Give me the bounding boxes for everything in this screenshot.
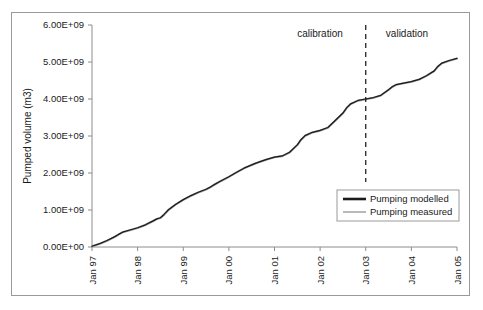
x-tick-label: Jan 01: [269, 256, 280, 285]
chart-root: 0.00E+001.00E+092.00E+093.00E+094.00E+09…: [0, 0, 483, 310]
y-tick-label: 1.00E+09: [43, 204, 84, 215]
y-tick-label: 6.00E+09: [43, 19, 84, 30]
y-tick-label: 4.00E+09: [43, 93, 84, 104]
y-axis-title: Pumped volume (m3): [22, 88, 33, 184]
chart-legend: Pumping modelled Pumping measured: [337, 190, 459, 221]
legend-label-measured: Pumping measured: [370, 206, 452, 217]
y-tick-label: 5.00E+09: [43, 56, 84, 67]
y-tick-label: 3.00E+09: [43, 130, 84, 141]
y-tick-label: 2.00E+09: [43, 167, 84, 178]
x-tick-label: Jan 00: [223, 256, 234, 285]
x-tick-label: Jan 03: [360, 256, 371, 285]
pumped-volume-line-chart: 0.00E+001.00E+092.00E+093.00E+094.00E+09…: [0, 0, 483, 310]
x-tick-label: Jan 97: [87, 256, 98, 285]
x-tick-label: Jan 99: [178, 256, 189, 285]
y-axis-ticks: 0.00E+001.00E+092.00E+093.00E+094.00E+09…: [43, 19, 92, 252]
x-tick-label: Jan 05: [452, 256, 463, 285]
x-axis-ticks: Jan 97Jan 98Jan 99Jan 00Jan 01Jan 02Jan …: [87, 247, 463, 285]
x-tick-label: Jan 02: [315, 256, 326, 285]
y-tick-label: 0.00E+00: [43, 241, 84, 252]
x-tick-label: Jan 98: [132, 256, 143, 285]
validation-label: validation: [386, 28, 428, 39]
x-tick-label: Jan 04: [406, 256, 417, 285]
calibration-label: calibration: [297, 28, 343, 39]
legend-label-modelled: Pumping modelled: [370, 193, 449, 204]
